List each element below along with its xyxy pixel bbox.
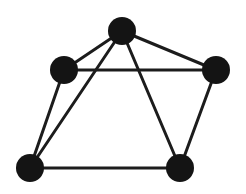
edge-right-bottom-right	[180, 70, 216, 168]
node-left	[50, 56, 78, 84]
graph-diagram	[0, 0, 246, 194]
node-bottom-right	[166, 154, 194, 182]
edges-group	[30, 31, 216, 168]
edge-left-bottom-left	[30, 70, 64, 168]
node-top	[108, 17, 136, 45]
node-bottom-left	[16, 154, 44, 182]
edge-top-bottom-left	[30, 31, 122, 168]
nodes-group	[16, 17, 230, 182]
node-right	[202, 56, 230, 84]
